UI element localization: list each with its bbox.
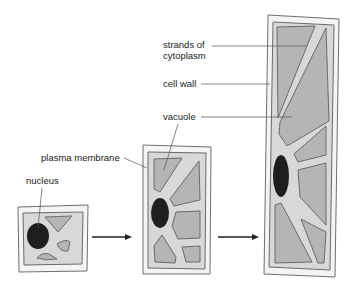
growth-arrow-2 bbox=[218, 234, 259, 240]
cell-medium bbox=[143, 145, 211, 274]
label-strands-line2: cytoplasm bbox=[163, 50, 206, 61]
label-cell-wall: cell wall bbox=[163, 78, 270, 89]
cell-tall bbox=[264, 15, 339, 277]
nucleus-tall bbox=[273, 155, 289, 197]
label-plasma-membrane-text: plasma membrane bbox=[41, 152, 120, 163]
label-strands-line1: strands of bbox=[163, 39, 205, 50]
label-vacuole-text: vacuole bbox=[163, 111, 196, 122]
label-nucleus-text: nucleus bbox=[26, 175, 59, 186]
growth-arrow-1 bbox=[92, 234, 132, 240]
plant-cell-growth-diagram: strands of cytoplasm cell wall vacuole p… bbox=[0, 0, 353, 289]
label-cell-wall-text: cell wall bbox=[163, 78, 196, 89]
nucleus-medium bbox=[151, 198, 169, 228]
cell-small bbox=[18, 205, 88, 272]
label-plasma-membrane: plasma membrane bbox=[41, 152, 147, 168]
vacuole-medium-3 bbox=[172, 211, 200, 239]
